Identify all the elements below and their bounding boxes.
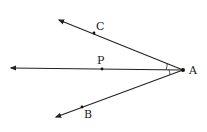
point-a xyxy=(181,68,185,72)
point-b xyxy=(81,106,84,109)
label-b: B xyxy=(84,108,92,121)
point-p xyxy=(101,68,104,71)
ray-ab xyxy=(56,70,183,117)
angle-mark-pab xyxy=(169,70,170,75)
diagram-canvas: A C P B xyxy=(0,0,207,132)
label-a: A xyxy=(188,64,198,77)
geometry-diagram: A C P B xyxy=(0,0,207,132)
ray-ac xyxy=(59,20,183,70)
label-p: P xyxy=(97,54,105,67)
point-c xyxy=(93,32,96,35)
label-c: C xyxy=(96,20,104,33)
angle-mark-cap xyxy=(166,64,167,70)
ray-ap xyxy=(11,68,183,70)
